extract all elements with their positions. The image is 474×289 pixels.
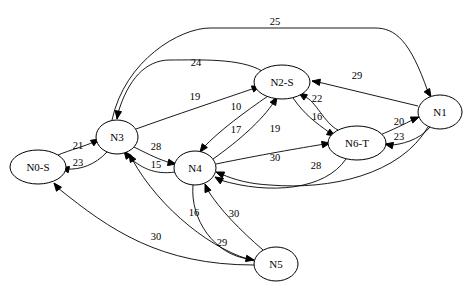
edge-n6-t-to-n4: 30	[215, 152, 346, 189]
node-n4: N4	[174, 151, 216, 185]
edge-n1-to-n2-s: 29	[312, 70, 418, 107]
edge-n3-to-n2-s: 19	[136, 86, 260, 129]
edge-line	[312, 81, 418, 106]
node-n6-t: N6-T	[328, 126, 386, 160]
arrowhead-icon	[205, 184, 211, 193]
arrowhead-icon	[115, 111, 121, 119]
edge-weight-label: 19	[190, 91, 201, 102]
edge-weight-label: 15	[151, 159, 162, 170]
arrowhead-icon	[129, 154, 136, 163]
arrowhead-icon	[312, 79, 320, 85]
edge-weight-label: 30	[151, 231, 162, 242]
node-label: N6-T	[345, 137, 369, 149]
edge-weight-label: 16	[189, 207, 200, 218]
edge-weight-label: 29	[352, 70, 363, 81]
edge-weight-label: 25	[270, 16, 281, 27]
edge-weight-label: 30	[270, 152, 281, 163]
edge-weight-label: 23	[73, 157, 84, 168]
edge-n3-to-n0-s: 23	[61, 152, 107, 173]
graph-diagram: 2524192123281510171622291930282023293016…	[0, 0, 474, 289]
arrowhead-icon	[410, 117, 419, 123]
edge-weight-label: 24	[191, 57, 202, 68]
node-n0-s: N0-S	[10, 150, 66, 184]
edge-n2-s-to-n6-t: 16	[293, 98, 335, 136]
node-label: N2-S	[270, 76, 293, 88]
node-n3: N3	[96, 120, 138, 154]
edge-n4-to-n5: 29	[193, 185, 254, 262]
edge-weight-label: 19	[270, 123, 281, 134]
edge-weight-label: 30	[229, 208, 240, 219]
edge-weight-label: 28	[151, 141, 162, 152]
arrowhead-icon	[424, 88, 431, 97]
edge-line	[54, 183, 254, 265]
edge-weight-label: 28	[311, 160, 322, 171]
edge-weight-label: 17	[231, 124, 242, 135]
edge-n4-to-n2-s: 17	[213, 97, 277, 159]
node-n2-s: N2-S	[254, 65, 310, 99]
edge-line	[213, 97, 277, 159]
edge-weight-label: 23	[394, 131, 405, 142]
edge-weight-label: 10	[231, 101, 242, 112]
edge-n5-to-n4: 30	[205, 184, 263, 250]
node-label: N3	[110, 131, 124, 143]
edge-n0-s-to-n3: 21	[58, 139, 99, 155]
edge-n5-to-n0-s: 30	[54, 183, 254, 265]
node-n1: N1	[418, 95, 462, 129]
edge-weight-label: 21	[73, 140, 84, 151]
edge-weight-label: 22	[312, 93, 323, 104]
node-label: N0-S	[26, 161, 49, 173]
node-n5: N5	[254, 247, 298, 281]
edge-weight-label: 20	[394, 116, 405, 127]
node-label: N5	[269, 258, 283, 270]
node-label: N1	[433, 106, 446, 118]
node-label: N4	[188, 162, 202, 174]
